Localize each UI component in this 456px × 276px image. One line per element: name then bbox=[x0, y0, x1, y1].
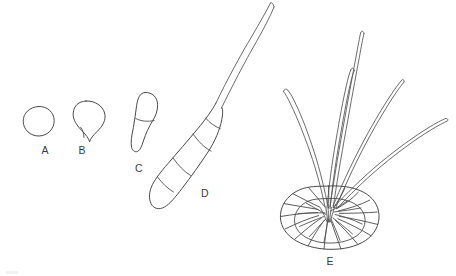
spore-development-figure: A B C D E bbox=[0, 0, 456, 276]
panel-label-d: D bbox=[201, 187, 209, 199]
figure-background bbox=[0, 0, 456, 276]
panel-label-a: A bbox=[41, 144, 48, 156]
scan-artifact bbox=[6, 271, 18, 274]
panel-label-b: B bbox=[78, 144, 85, 156]
panel-label-e: E bbox=[326, 255, 333, 267]
figure-root: A B C D E bbox=[0, 0, 456, 276]
panel-label-c: C bbox=[135, 162, 143, 174]
